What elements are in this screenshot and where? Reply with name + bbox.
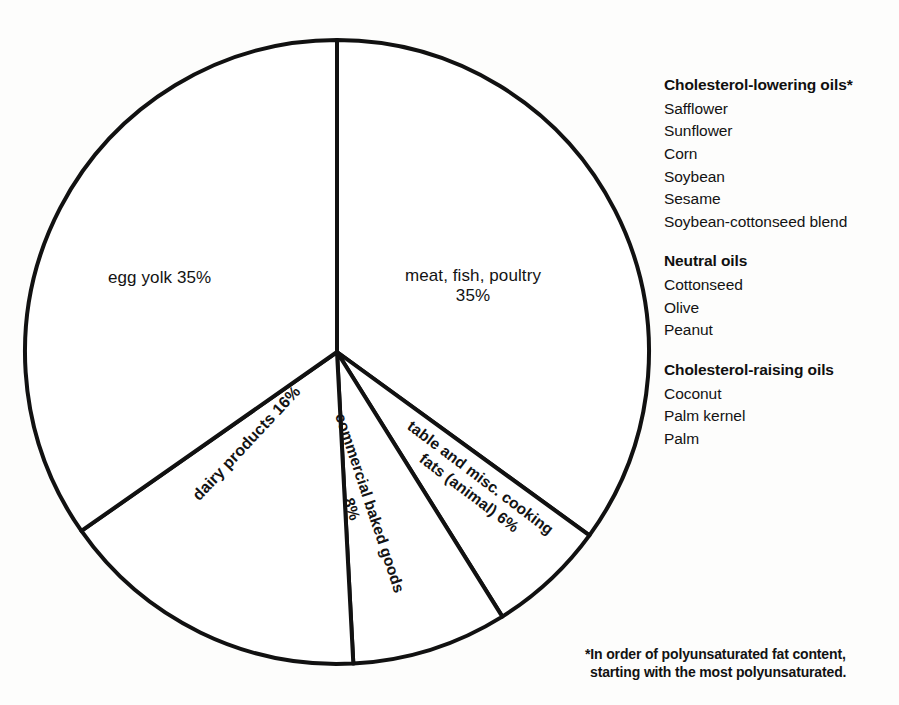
legend-group-cholesterol-lowering-oils: Cholesterol-lowering oils* Safflower Sun… [664,74,896,233]
legend-item-corn: Corn [664,143,896,166]
slice-label-meat-fish-poultry: meat, fish, poultry35% [383,266,563,306]
legend-item-palm: Palm [664,428,896,451]
footnote-line-2: starting with the most polyunsaturated. [585,663,895,681]
legend-item-safflower: Safflower [664,98,896,121]
pie-chart-svg [0,0,660,705]
legend-group-cholesterol-raising-oils: Cholesterol-raising oils Coconut Palm ke… [664,359,896,451]
legend-group-neutral-oils: Neutral oils Cottonseed Olive Peanut [664,250,896,342]
legend-item-palm-kernel: Palm kernel [664,405,896,428]
footnote: *In order of polyunsaturated fat content… [585,645,895,682]
footnote-line-1: *In order of polyunsaturated fat content… [585,645,895,663]
legend-item-sesame: Sesame [664,188,896,211]
legend-item-peanut: Peanut [664,319,896,342]
legend-item-coconut: Coconut [664,383,896,406]
slice-label-meat-line-2: 35% [456,286,490,305]
legend-item-cottonseed: Cottonseed [664,274,896,297]
pie-chart-figure: egg yolk 35% meat, fish, poultry35% dair… [0,0,660,705]
legend-item-olive: Olive [664,297,896,320]
legend-item-soybean: Soybean [664,166,896,189]
legend-heading-cholesterol-lowering-oils: Cholesterol-lowering oils* [664,74,896,97]
legend-item-sunflower: Sunflower [664,120,896,143]
slice-label-egg-yolk: egg yolk 35% [108,268,211,288]
oils-legend: Cholesterol-lowering oils* Safflower Sun… [664,74,896,450]
legend-item-soybean-cottonseed-blend: Soybean-cottonseed blend [664,211,896,234]
chart-page: egg yolk 35% meat, fish, poultry35% dair… [0,0,899,705]
pie-slices [25,40,649,664]
slice-label-meat-line-1: meat, fish, poultry [405,266,541,285]
legend-heading-neutral-oils: Neutral oils [664,250,896,273]
legend-heading-cholesterol-raising-oils: Cholesterol-raising oils [664,359,896,382]
